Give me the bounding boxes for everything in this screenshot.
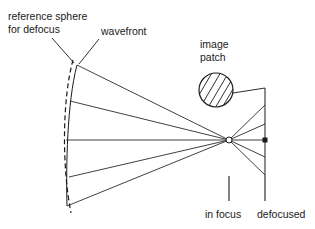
reference-sphere-arc (64, 60, 73, 213)
focus-point-marker (226, 137, 232, 143)
diverging-ray-4 (229, 140, 265, 157)
diverging-ray-2 (229, 124, 265, 140)
wavefront-leader-line (79, 39, 99, 64)
in-focus-label: in focus (205, 208, 241, 220)
image-patch-label-line2: patch (200, 51, 226, 63)
image-patch-label-line1: image (200, 38, 229, 50)
wavefront-label: wavefront (100, 25, 147, 37)
diverging-ray-5 (229, 140, 265, 175)
converging-ray-5 (67, 140, 229, 206)
optics-defocus-diagram: reference sphere for defocus wavefront i… (0, 0, 315, 229)
converging-ray-2 (70, 101, 229, 140)
defocused-label: defocused (257, 208, 306, 220)
reference-sphere-leader-line (52, 38, 74, 63)
converging-ray-4 (69, 140, 229, 177)
defocused-blur-spot-marker (263, 138, 268, 143)
diverging-ray-1 (229, 105, 265, 140)
reference-sphere-label-line1: reference sphere (8, 10, 88, 22)
reference-sphere-label-line2: for defocus (8, 23, 60, 35)
image-patch-to-plane-leader (233, 88, 265, 93)
image-patch-circle (199, 73, 233, 107)
